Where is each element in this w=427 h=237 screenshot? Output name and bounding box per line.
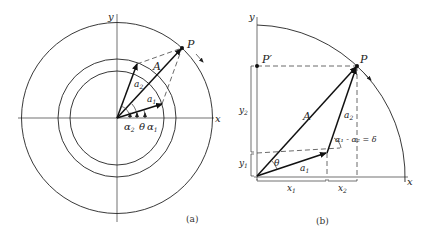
x1-label: x1 <box>287 183 296 194</box>
phasor-diagram: x y P A a2 a1 α2 θ α1 (a) <box>0 0 427 237</box>
point-p-label-b: P <box>359 53 368 66</box>
brace-y1 <box>251 154 254 176</box>
angle-arc-theta <box>132 104 137 118</box>
angle-label-alpha2: α2 <box>124 121 135 133</box>
point-p-prime-label: P′ <box>261 53 272 66</box>
vector-a2-label: a2 <box>134 79 143 90</box>
x2-label: x2 <box>338 183 347 194</box>
brace-x1 <box>257 179 326 181</box>
angle-label-alpha1: α1 <box>147 121 158 133</box>
point-p-prime <box>255 64 259 68</box>
vector-a1-label: a1 <box>147 94 156 105</box>
caption-b: (b) <box>316 216 329 226</box>
angle-label-theta: θ <box>139 121 145 132</box>
resultant-label-a: A <box>152 60 161 73</box>
point-p-a <box>180 46 184 50</box>
x-axis-label-b: x <box>407 176 413 187</box>
vector-a1-label-b: a1 <box>300 163 309 174</box>
resultant-label-b: A <box>302 110 311 123</box>
panel-b: y x P P′ A a2 a1 θ α₁ - α₂ = δ y2 y1 <box>238 11 413 226</box>
y1-label: y1 <box>238 158 248 169</box>
y-axis-label-b: y <box>248 11 255 22</box>
phase-difference-label: α₁ - α₂ = δ <box>335 135 377 144</box>
rotation-arrow-icon-a <box>196 54 203 62</box>
y-axis-label-a: y <box>107 11 114 22</box>
rotation-arrow-icon-b <box>363 72 371 80</box>
point-p-label-a: P <box>186 38 195 51</box>
panel-a: x y P A a2 a1 α2 θ α1 (a) <box>18 11 221 224</box>
point-p-b <box>355 64 359 68</box>
theta-label-b: θ <box>274 158 280 168</box>
caption-a: (a) <box>186 214 198 224</box>
brace-x2 <box>328 179 357 181</box>
vector-a2-label-b: a2 <box>344 110 353 121</box>
x-axis-label-a: x <box>215 113 221 124</box>
y2-label: y2 <box>238 105 248 116</box>
brace-y2 <box>251 66 254 152</box>
